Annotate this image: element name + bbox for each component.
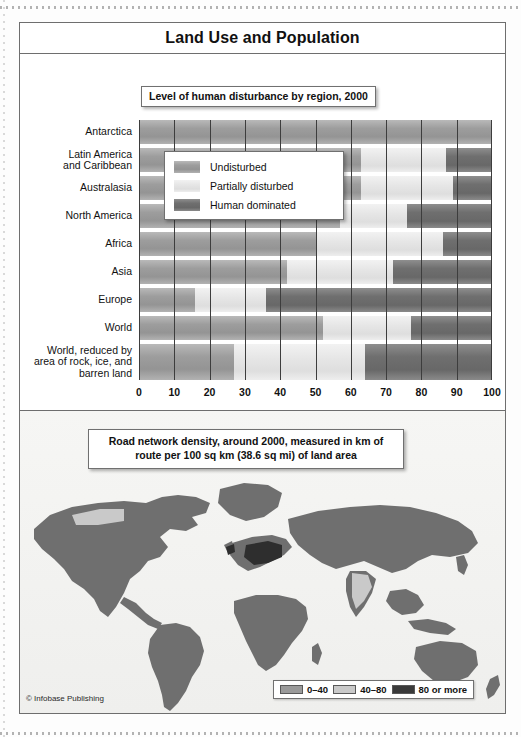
legend-item: Undisturbed [174,161,334,173]
bar-row-label: North America [20,210,139,222]
x-tick-label: 20 [204,386,216,398]
bar-row-label: Latin Americaand Caribbean [20,149,139,172]
stacked-bar [139,260,492,284]
legend-swatch-partially-disturbed-icon [174,180,200,192]
legend-item: Human dominated [174,199,334,211]
figure-frame: Land Use and Population Level of human d… [19,22,506,714]
bar-segment-human-dominated [365,344,492,380]
bar-row-label: World [20,322,139,334]
bar-row-label: Asia [20,266,139,278]
stacked-bar [139,344,492,380]
bar-segment-human-dominated [446,148,492,172]
bar-row-label: World, reduced byarea of rock, ice, andb… [20,345,139,380]
bar-segment-human-dominated [266,288,492,312]
x-tick-label: 90 [451,386,463,398]
bar-segment-partially-disturbed [323,316,411,340]
bar-segment-partially-disturbed [316,232,443,256]
bar-segment-human-dominated [443,232,492,256]
x-tick-label: 100 [483,386,501,398]
publisher-credit: © Infobase Publishing [26,694,104,703]
stacked-bar [139,232,492,256]
chart-caption: Level of human disturbance by region, 20… [141,86,376,107]
bar-row-label: Australasia [20,182,139,194]
map-legend-label: 40–80 [360,684,386,695]
bar-row-label: Africa [20,238,139,250]
stacked-bar [139,120,492,144]
bar-row-label: Europe [20,294,139,306]
bar-segment-undisturbed [139,120,492,144]
bar-segment-undisturbed [139,344,234,380]
bar-chart-panel: Level of human disturbance by region, 20… [20,54,505,411]
bar-segment-partially-disturbed [195,288,266,312]
bar-segment-undisturbed [139,260,287,284]
bar-segment-undisturbed [139,316,323,340]
page-title: Land Use and Population [165,29,359,47]
stacked-bar [139,316,492,340]
bar-row: Antarctica [20,120,505,144]
bar-segment-partially-disturbed [234,344,365,380]
page-root: Land Use and Population Level of human d… [0,0,521,737]
bar-segment-human-dominated [393,260,492,284]
legend-swatch-human-dominated-icon [174,199,200,211]
map-legend-swatch-80-or-more-icon [392,685,415,694]
map-legend: 0–40 40–80 80 or more [273,680,474,699]
world-map-panel: Road network density, around 2000, measu… [20,411,505,713]
map-legend-item: 40–80 [333,684,386,695]
x-tick-label: 80 [416,386,428,398]
bar-segment-partially-disturbed [287,260,393,284]
x-tick-label: 60 [345,386,357,398]
chart-legend: Undisturbed Partially disturbed Human do… [164,151,344,220]
bar-row: Asia [20,260,505,284]
bar-segment-human-dominated [407,204,492,228]
map-legend-item: 80 or more [392,684,468,695]
map-legend-swatch-0-40-icon [280,685,303,694]
x-tick-label: 40 [274,386,286,398]
scan-edge-left [3,0,5,737]
bar-row: Africa [20,232,505,256]
figure-title-bar: Land Use and Population [20,23,505,54]
x-tick-label: 50 [310,386,322,398]
legend-label: Undisturbed [210,161,267,173]
bar-segment-partially-disturbed [361,176,453,200]
x-axis-ticks: 0102030405060708090100 [139,384,492,400]
map-legend-item: 0–40 [280,684,328,695]
x-tick-label: 70 [380,386,392,398]
bar-row: World, reduced byarea of rock, ice, andb… [20,344,505,380]
bar-row-label: Antarctica [20,126,139,138]
bar-segment-partially-disturbed [361,148,446,172]
x-tick-label: 10 [168,386,180,398]
stacked-bar [139,288,492,312]
map-legend-swatch-40-80-icon [333,685,356,694]
legend-label: Partially disturbed [210,180,293,192]
bar-segment-partially-disturbed [340,204,407,228]
bar-segment-undisturbed [139,232,316,256]
legend-item: Partially disturbed [174,180,334,192]
bar-segment-human-dominated [453,176,492,200]
map-legend-label: 0–40 [307,684,328,695]
x-tick-label: 0 [136,386,142,398]
scan-edge-top [0,6,521,9]
map-caption: Road network density, around 2000, measu… [88,429,404,469]
map-legend-label: 80 or more [419,684,468,695]
bar-row: World [20,316,505,340]
bar-segment-undisturbed [139,288,195,312]
legend-label: Human dominated [210,199,296,211]
legend-swatch-undisturbed-icon [174,161,200,173]
bar-segment-human-dominated [411,316,492,340]
bar-row: Europe [20,288,505,312]
scan-edge-bottom [0,732,521,735]
x-tick-label: 30 [239,386,251,398]
